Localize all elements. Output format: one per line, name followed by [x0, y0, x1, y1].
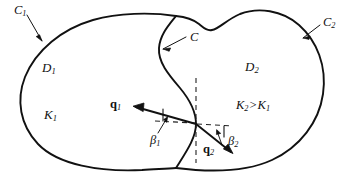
label-flux-vector-q1: q1 [110, 98, 121, 112]
label-outer-boundary-right-c2: C2 [323, 16, 335, 30]
label-angle-beta1: β1 [150, 134, 160, 148]
label-conductivity-left-k1: K1 [44, 108, 57, 122]
leader-arrow-c1 [27, 15, 42, 41]
figure-canvas [0, 0, 350, 187]
label-domain-right-d2: D2 [245, 60, 259, 74]
label-angle-beta2: β2 [228, 135, 238, 149]
flux-vector-q1 [133, 103, 196, 124]
label-domain-left-d1: D1 [42, 61, 56, 75]
leader-arrow-c [163, 37, 186, 51]
label-interface-curve-c: C [190, 31, 198, 44]
label-flux-vector-q2: q2 [203, 143, 214, 157]
tangent-dashed-right [197, 124, 233, 126]
heat-flux-interface-figure: C1 C2 C D1 D2 K1 K2>K1 q1 q2 β1 β2 [0, 0, 350, 187]
label-outer-boundary-left-c1: C1 [14, 4, 26, 18]
label-conductivity-inequality: K2>K1 [236, 99, 270, 113]
